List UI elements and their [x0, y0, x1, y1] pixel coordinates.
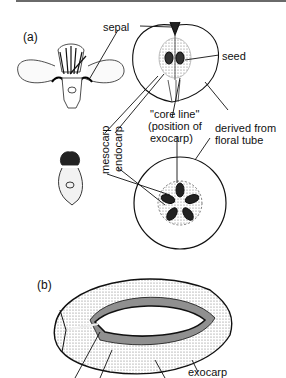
label-core-line-1: "core line": [150, 108, 199, 120]
label-derived-2: floral tube: [215, 134, 263, 146]
label-derived-1: derived from: [215, 122, 276, 134]
label-sepal: sepal: [103, 21, 129, 33]
bud-icon: [59, 152, 83, 205]
label-seed: seed: [222, 50, 246, 62]
fruit-b-section-icon: [54, 279, 232, 374]
cross-section-icon: [134, 157, 226, 249]
flower-icon: [18, 44, 124, 108]
label-endocarp: endocarp: [112, 126, 124, 172]
panel-a-label: (a): [23, 30, 38, 44]
label-core-line-3: exocarp): [150, 132, 193, 144]
label-mesocarp: mesocarp: [99, 126, 111, 174]
label-exocarp: exocarp: [188, 366, 227, 378]
label-core-line-2: (position of: [148, 120, 202, 132]
panel-b-label: (b): [37, 278, 52, 292]
